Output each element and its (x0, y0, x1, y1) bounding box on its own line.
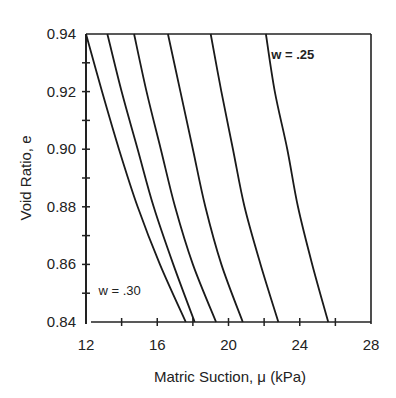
void-ratio-vs-suction-chart: 12162024280.840.860.880.900.920.94 Matri… (0, 0, 396, 398)
curve-line (211, 34, 279, 322)
y-tick-label: 0.94 (47, 25, 76, 42)
curve-line (266, 34, 328, 322)
x-tick-label: 16 (149, 336, 166, 353)
x-tick-label: 20 (220, 336, 237, 353)
x-tick-label: 24 (291, 336, 308, 353)
y-tick-label: 0.90 (47, 140, 76, 157)
y-tick-label: 0.84 (47, 313, 76, 330)
y-tick-label: 0.88 (47, 198, 76, 215)
x-tick-label: 28 (363, 336, 380, 353)
x-tick-label: 12 (78, 336, 95, 353)
y-tick-label: 0.92 (47, 83, 76, 100)
curve-line (86, 34, 186, 322)
curve-line (107, 34, 194, 322)
curves-group (86, 34, 328, 322)
annotations-group: w = .25w = .30 (97, 47, 314, 298)
curve-label: w = .30 (97, 283, 140, 298)
y-tick-label: 0.86 (47, 255, 76, 272)
x-axis-title: Matric Suction, μ (kPa) (154, 368, 306, 385)
curve-label: w = .25 (270, 47, 314, 62)
y-axis-title: Void Ratio, e (17, 135, 34, 220)
